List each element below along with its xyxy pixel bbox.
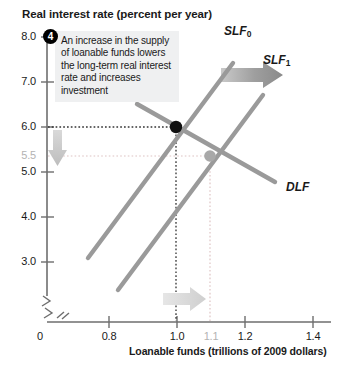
annotation-text: An increase in the supply of loanable fu… <box>61 35 174 97</box>
x-tick-label-1-2: 1.2 <box>230 330 260 342</box>
x-tick-label-1-4: 1.4 <box>298 330 328 342</box>
annotation-step-badge: 4 <box>43 29 58 44</box>
curve-label-slf0-base: SLF <box>224 24 247 38</box>
y-tick-label-7-0: 7.0 <box>10 75 36 87</box>
annotation-box: An increase in the supply of loanable fu… <box>55 31 179 102</box>
curve-slf1 <box>118 95 263 290</box>
loanable-funds-chart: Real interest rate (percent per year) Lo… <box>0 0 341 366</box>
interest-rate-fall-arrow <box>48 130 67 166</box>
y-axis-title: Real interest rate (percent per year) <box>22 8 212 20</box>
y-tick-label-5-5: 5.5 <box>10 149 36 161</box>
curve-label-slf1: SLF1 <box>263 53 290 67</box>
y-tick-label-8-0: 8.0 <box>10 30 36 42</box>
x-origin-label: 0 <box>25 330 55 342</box>
x-tick-label-0-8: 0.8 <box>94 330 124 342</box>
curve-label-slf0: SLF0 <box>224 24 251 38</box>
original-equilibrium-point <box>170 121 182 133</box>
x-tick-label-1-1: 1.1 <box>196 330 226 342</box>
axis-break-marks <box>42 296 69 319</box>
x-tick-label-1-0: 1.0 <box>162 330 192 342</box>
investment-increase-arrow <box>163 287 206 311</box>
y-tick-label-6-0: 6.0 <box>10 120 36 132</box>
y-tick-label-5-0: 5.0 <box>10 165 36 177</box>
curve-label-dlf: DLF <box>286 180 309 194</box>
x-axis-title: Loanable funds (trillions of 2009 dollar… <box>129 345 327 357</box>
y-tick-label-3-0: 3.0 <box>10 255 36 267</box>
curve-label-slf0-subscript: 0 <box>247 29 252 39</box>
new-equilibrium-point <box>204 150 216 162</box>
curve-label-slf1-base: SLF <box>263 53 286 67</box>
curve-label-slf1-subscript: 1 <box>286 58 291 68</box>
y-tick-label-4-0: 4.0 <box>10 210 36 222</box>
